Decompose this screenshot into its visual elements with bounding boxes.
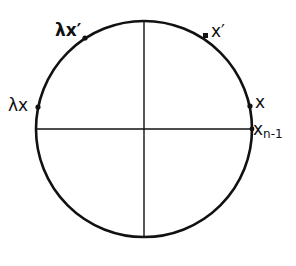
circle-diagram	[0, 0, 296, 266]
label-x-n-minus-1-sub: n-1	[263, 127, 283, 141]
point-x-prime	[203, 33, 208, 38]
diagram-canvas: λx′ x′ x xn-1 λx	[0, 0, 296, 266]
label-x-n-minus-1-main: x	[253, 119, 263, 139]
point-x	[247, 103, 252, 108]
label-lambda-x: λx	[8, 97, 28, 114]
label-x-n-minus-1: xn-1	[253, 121, 283, 140]
point-lambda-x-prime	[82, 35, 87, 40]
label-lambda-x-prime: λx′	[55, 22, 81, 39]
point-lambda-x	[35, 104, 40, 109]
label-x: x	[255, 94, 265, 111]
label-x-prime: x′	[211, 23, 225, 40]
